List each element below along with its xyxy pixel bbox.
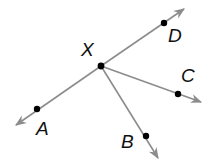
label-b: B xyxy=(121,131,134,152)
label-a: A xyxy=(35,118,49,139)
rays-diagram: DCBAX xyxy=(0,0,213,161)
point-b xyxy=(143,133,149,139)
label-c: C xyxy=(181,65,195,86)
label-d: D xyxy=(168,25,182,46)
point-a xyxy=(34,106,40,112)
geometry-diagram: DCBAX xyxy=(0,0,213,161)
point-x xyxy=(98,63,105,70)
label-x: X xyxy=(80,39,95,60)
points-group xyxy=(34,20,181,139)
point-c xyxy=(175,91,181,97)
ray-xa xyxy=(16,66,101,125)
point-d xyxy=(161,20,167,26)
